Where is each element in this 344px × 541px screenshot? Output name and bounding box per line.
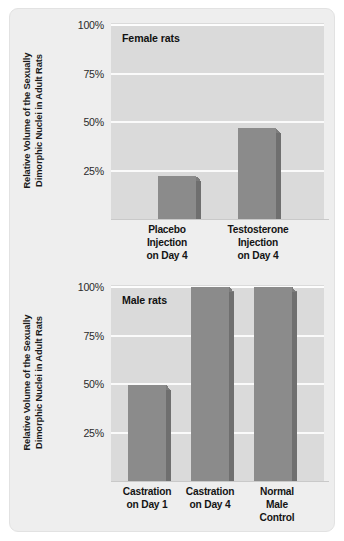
y-axis-title: Relative Volume of the Sexually Dimorphi… — [10, 285, 56, 481]
y-tick-25: 25% — [83, 165, 104, 177]
bar-placebo-injection — [158, 176, 196, 219]
y-tick-75: 75% — [83, 330, 104, 342]
x-label-line-3: Control — [239, 511, 315, 524]
x-axis-baseline — [111, 481, 329, 482]
x-axis-baseline — [111, 219, 329, 220]
series-label-female: Female rats — [122, 32, 180, 44]
y-tick-50: 50% — [83, 378, 104, 390]
y-axis-tick-labels: 100% 75% 50% 25% — [56, 285, 110, 481]
bar-side — [229, 292, 234, 481]
y-axis-tick-labels: 100% 75% 50% 25% — [56, 23, 110, 219]
gridline-100 — [111, 24, 324, 26]
series-label-male: Male rats — [122, 294, 167, 306]
gridline-25 — [111, 170, 324, 172]
y-tick-50: 50% — [83, 116, 104, 128]
x-label-testosterone: Testosterone Injection on Day 4 — [202, 223, 314, 263]
bar-side — [166, 390, 171, 481]
gridline-75 — [111, 73, 324, 75]
x-label-line-2: Injection — [202, 236, 314, 249]
x-label-line-2: Male — [239, 498, 315, 511]
y-axis-title-line-1: Relative Volume of the Sexually — [21, 315, 33, 451]
y-axis-title-line-1: Relative Volume of the Sexually — [21, 53, 33, 189]
x-label-line-3: on Day 4 — [202, 249, 314, 262]
bar-side — [292, 292, 297, 481]
bar-side — [276, 133, 281, 219]
y-axis-title: Relative Volume of the Sexually Dimorphi… — [10, 23, 56, 219]
gridline-50 — [111, 121, 324, 123]
x-label-line-1: Testosterone — [202, 223, 314, 236]
bar-castration-day-4 — [191, 287, 229, 481]
x-axis-category-labels: Placebo Injection on Day 4 Testosterone … — [111, 223, 329, 275]
bar-side — [196, 181, 201, 219]
plot-area-male: Male rats — [111, 285, 324, 481]
chart-female-rats: Relative Volume of the Sexually Dimorphi… — [10, 23, 335, 275]
y-tick-75: 75% — [83, 68, 104, 80]
y-tick-100: 100% — [78, 281, 104, 293]
y-tick-25: 25% — [83, 427, 104, 439]
x-label-line-1: Normal — [239, 485, 315, 498]
y-axis-title-line-2: Dimorphic Nuclei in Adult Rats — [33, 53, 45, 189]
chart-male-rats: Relative Volume of the Sexually Dimorphi… — [10, 285, 335, 529]
x-axis-category-labels: Castration on Day 1 Castration on Day 4 … — [111, 485, 329, 532]
y-tick-100: 100% — [78, 19, 104, 31]
y-axis-title-line-2: Dimorphic Nuclei in Adult Rats — [33, 315, 45, 451]
x-label-normal-male-control: Normal Male Control — [239, 485, 315, 525]
bar-castration-day-1 — [128, 385, 166, 481]
bar-normal-male-control — [254, 287, 292, 481]
bar-testosterone-injection — [238, 128, 276, 219]
figure-card: Relative Volume of the Sexually Dimorphi… — [9, 8, 335, 532]
plot-area-female: Female rats — [111, 23, 324, 219]
